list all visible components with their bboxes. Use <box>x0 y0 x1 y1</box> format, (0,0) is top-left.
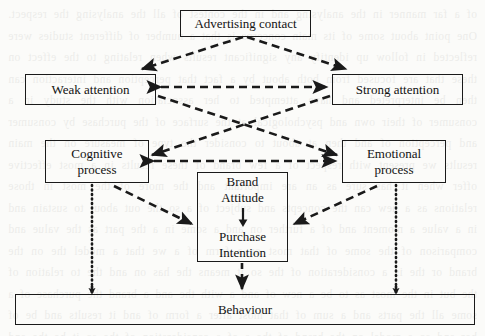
node-cognitive-process-label: Cognitive process <box>71 146 122 178</box>
edge-weak-to-emotional <box>158 96 337 155</box>
node-emotional-process-label: Emotional process <box>367 146 421 178</box>
node-advertising-contact: Advertising contact <box>180 10 311 37</box>
edge-emotional-to-brand-attitude <box>294 186 377 224</box>
edge-advertising-to-strong <box>247 37 346 69</box>
node-cognitive-process: Cognitive process <box>45 140 149 183</box>
brand-attitude-to-purchase-intention-arrow <box>236 208 250 228</box>
node-brand-attitude-label: Brand Attitude <box>221 174 264 206</box>
edge-advertising-to-weak <box>142 37 243 69</box>
node-strong-attention: Strong attention <box>332 74 463 105</box>
node-weak-attention-label: Weak attention <box>51 82 129 97</box>
node-weak-attention: Weak attention <box>25 74 156 105</box>
node-brand-attitude-purchase-intention: Brand Attitude Purchase Intention <box>197 172 288 262</box>
node-emotional-process: Emotional process <box>342 140 446 183</box>
edge-strong-to-cognitive <box>152 96 330 155</box>
node-purchase-intention-label: Purchase Intention <box>219 229 266 261</box>
node-behaviour: Behaviour <box>15 294 475 325</box>
node-advertising-contact-label: Advertising contact <box>194 16 296 31</box>
figure-canvas: of a far manner in the analysing and in … <box>0 0 485 336</box>
node-behaviour-label: Behaviour <box>218 302 272 317</box>
node-strong-attention-label: Strong attention <box>356 82 439 97</box>
edge-cognitive-to-brand-attitude <box>114 186 192 224</box>
